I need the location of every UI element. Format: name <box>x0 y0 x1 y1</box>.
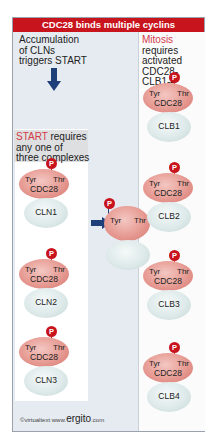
cyclin-unbound <box>106 240 150 270</box>
kinase-label: CDC28 <box>19 184 69 194</box>
thr-label: Thr <box>177 179 189 188</box>
cdc28-kinase: Tyr Thr CDC28 <box>19 259 69 289</box>
cyclin-label: CLN2 <box>24 297 68 307</box>
phospho-icon: P <box>46 248 57 259</box>
phospho-icon: P <box>169 250 180 261</box>
thr-label: Thr <box>134 216 146 225</box>
cdc28-kinase: Tyr Thr CDC28 <box>143 173 193 203</box>
cyclin-cln1: CLN1 <box>24 198 68 228</box>
mitosis-line-2: activated <box>142 56 204 67</box>
phospho-icon: P <box>169 72 180 83</box>
kinase-label: CDC28 <box>143 188 193 198</box>
footer-credit: ©virtualtext www.ergito.com <box>20 413 104 424</box>
tyr-label: Tyr <box>149 89 160 98</box>
thr-label: Thr <box>177 267 189 276</box>
mitosis-rest: requires <box>142 45 178 56</box>
cyclin-label: CLN3 <box>24 375 68 385</box>
cyclin-label: CLB3 <box>147 299 191 309</box>
intro-line-1: Accumulation <box>19 35 87 46</box>
cyclin-clb4: CLB4 <box>147 382 191 412</box>
cyclin-cln3: CLN3 <box>24 366 68 396</box>
phospho-icon: P <box>169 342 180 353</box>
tld-text: .com <box>91 417 104 423</box>
cdc28-kinase: Tyr Thr CDC28 <box>19 337 69 367</box>
cyclin-clb2: CLB2 <box>147 202 191 232</box>
thr-label: Thr <box>177 89 189 98</box>
tyr-label: Tyr <box>149 267 160 276</box>
tyr-label: Tyr <box>149 359 160 368</box>
phospho-icon: P <box>46 326 57 337</box>
cdc28-kinase: Tyr Thr <box>104 206 150 241</box>
thr-label: Thr <box>177 359 189 368</box>
copyright-text: ©virtualtext <box>20 417 50 423</box>
phospho-icon: P <box>169 162 180 173</box>
cyclin-label: CLN1 <box>24 207 68 217</box>
cdc28-kinase: Tyr Thr CDC28 <box>143 83 193 113</box>
cdc28-kinase: Tyr Thr CDC28 <box>143 261 193 291</box>
phospho-icon: P <box>46 158 57 169</box>
cdc28-kinase: Tyr Thr CDC28 <box>143 353 193 383</box>
tyr-label: Tyr <box>149 179 160 188</box>
tyr-label: Tyr <box>25 343 36 352</box>
kinase-label: CDC28 <box>143 276 193 286</box>
diagram-frame: CDC28 binds multiple cyclins Accumulatio… <box>12 17 205 432</box>
tyr-label: Tyr <box>110 216 121 225</box>
site-name: ergito <box>66 413 91 424</box>
cyclin-clb3: CLB3 <box>147 290 191 320</box>
cyclin-label: CLB2 <box>147 211 191 221</box>
www-text: www. <box>52 417 66 423</box>
mitosis-highlight: Mitosis <box>142 34 173 45</box>
intro-text: Accumulation of CLNs triggers START <box>19 35 87 67</box>
phospho-icon: P <box>104 198 115 209</box>
thr-label: Thr <box>53 265 65 274</box>
cyclin-label: CLB4 <box>147 391 191 401</box>
diagram-title: CDC28 binds multiple cyclins <box>13 18 204 32</box>
cyclin-cln2: CLN2 <box>24 288 68 318</box>
kinase-label: CDC28 <box>143 368 193 378</box>
down-arrow-icon <box>47 68 61 92</box>
tyr-label: Tyr <box>25 265 36 274</box>
intro-line-3: triggers START <box>19 56 87 67</box>
cyclin-label: CLB1 <box>147 121 191 131</box>
kinase-label: CDC28 <box>19 274 69 284</box>
thr-label: Thr <box>53 175 65 184</box>
kinase-label: CDC28 <box>19 352 69 362</box>
start-highlight: START <box>16 131 48 142</box>
cdc28-kinase: Tyr Thr CDC28 <box>19 169 69 199</box>
start-rest: requires <box>48 131 87 142</box>
cyclin-clb1: CLB1 <box>147 112 191 142</box>
thr-label: Thr <box>53 343 65 352</box>
kinase-label: CDC28 <box>143 98 193 108</box>
tyr-label: Tyr <box>25 175 36 184</box>
